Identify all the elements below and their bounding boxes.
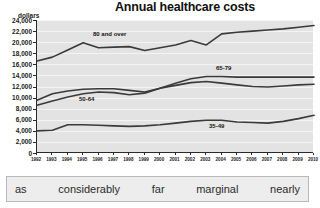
y-tick-label: 6,000 xyxy=(16,116,32,123)
x-tick-label: 2009 xyxy=(292,157,302,163)
x-tick-mark xyxy=(236,153,237,155)
series-label-80-and-over: 80 and over xyxy=(93,31,126,38)
y-tick-label: 20,000 xyxy=(12,39,32,46)
x-tick-mark xyxy=(313,153,314,155)
y-tick-mark xyxy=(33,31,36,32)
y-tick-label: 0 xyxy=(28,150,32,157)
x-tick-label: 1999 xyxy=(139,157,149,163)
word-bank: asconsiderablyfarmarginalnearly xyxy=(6,176,309,202)
x-tick-mark xyxy=(128,153,129,155)
x-tick-mark xyxy=(282,153,283,155)
y-tick-label: 10,000 xyxy=(12,94,32,101)
y-tick-mark xyxy=(33,75,36,76)
y-tick-label: 8,000 xyxy=(16,105,32,112)
y-tick-mark xyxy=(33,87,36,88)
x-tick-label: 2004 xyxy=(216,157,226,163)
y-tick-mark xyxy=(33,53,36,54)
x-tick-mark xyxy=(267,153,268,155)
y-tick-label: 4,000 xyxy=(16,127,32,134)
x-tick-label: 2000 xyxy=(154,157,164,163)
series-label-50-64: 50-64 xyxy=(79,96,94,103)
y-tick-mark xyxy=(33,131,36,132)
series-line xyxy=(37,26,314,61)
x-tick-label: 2005 xyxy=(231,157,241,163)
y-tick-mark xyxy=(33,64,36,65)
y-tick-label: 16,000 xyxy=(12,61,32,68)
screenshot-root: Annual healthcare costs dollars 24,00022… xyxy=(0,0,320,208)
chart-figure: Annual healthcare costs dollars 24,00022… xyxy=(0,0,320,170)
x-tick-label: 2008 xyxy=(277,157,287,163)
word-bank-item[interactable]: as xyxy=(15,183,27,196)
x-tick-mark xyxy=(175,153,176,155)
y-tick-mark xyxy=(33,142,36,143)
word-bank-item[interactable]: marginal xyxy=(196,183,238,196)
x-tick-label: 2010 xyxy=(308,157,318,163)
x-tick-label: 2002 xyxy=(185,157,195,163)
plot-area xyxy=(36,20,313,153)
series-label-65-79: 65-79 xyxy=(216,65,231,72)
y-tick-label: 14,000 xyxy=(12,72,32,79)
x-tick-label: 1996 xyxy=(92,157,102,163)
plot-inner xyxy=(37,20,313,152)
x-tick-mark xyxy=(82,153,83,155)
y-tick-label: 18,000 xyxy=(12,50,32,57)
x-tick-label: 1998 xyxy=(123,157,133,163)
y-tick-mark xyxy=(33,120,36,121)
series-label-35-49: 35-49 xyxy=(209,123,224,130)
x-tick-mark xyxy=(190,153,191,155)
x-tick-mark xyxy=(298,153,299,155)
x-tick-mark xyxy=(98,153,99,155)
series-lines xyxy=(37,20,314,153)
y-tick-mark xyxy=(33,109,36,110)
y-tick-mark xyxy=(33,20,36,21)
y-tick-label: 12,000 xyxy=(12,83,32,90)
x-tick-label: 2007 xyxy=(262,157,272,163)
x-tick-label: 1993 xyxy=(46,157,56,163)
x-tick-label: 1992 xyxy=(31,157,41,163)
word-bank-item[interactable]: far xyxy=(152,183,165,196)
y-tick-mark xyxy=(33,42,36,43)
x-tick-mark xyxy=(159,153,160,155)
x-tick-label: 2006 xyxy=(246,157,256,163)
x-tick-label: 1997 xyxy=(108,157,118,163)
x-tick-label: 1994 xyxy=(62,157,72,163)
word-bank-item[interactable]: considerably xyxy=(58,183,120,196)
x-tick-mark xyxy=(205,153,206,155)
x-tick-mark xyxy=(221,153,222,155)
x-tick-mark xyxy=(144,153,145,155)
x-tick-mark xyxy=(51,153,52,155)
series-line xyxy=(37,115,314,131)
x-tick-mark xyxy=(251,153,252,155)
y-tick-label: 22,000 xyxy=(12,28,32,35)
x-tick-label: 1995 xyxy=(77,157,87,163)
chart-title: Annual healthcare costs xyxy=(70,0,300,14)
word-bank-item[interactable]: nearly xyxy=(270,183,300,196)
y-tick-mark xyxy=(33,98,36,99)
x-tick-label: 2003 xyxy=(200,157,210,163)
x-tick-mark xyxy=(113,153,114,155)
x-tick-mark xyxy=(67,153,68,155)
y-tick-label: 24,000 xyxy=(12,17,32,24)
x-tick-label: 2001 xyxy=(169,157,179,163)
x-tick-mark xyxy=(36,153,37,155)
y-tick-label: 2,000 xyxy=(16,138,32,145)
